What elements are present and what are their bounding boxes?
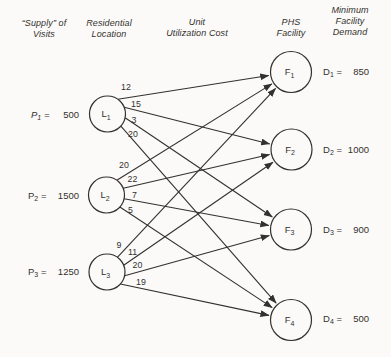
demand-label-D3-value: 900 [353,224,369,235]
transportation-network-diagram: “Supply” of Visits Residential Location … [0,0,391,357]
demand-label-D1-value: 850 [353,66,369,77]
supply-label-P1-value: 500 [63,109,79,120]
cost-label-L3-F3: 20 [133,260,143,270]
cost-label-L1-F3: 3 [132,115,137,125]
cost-label-L2-F1: 20 [119,160,129,170]
edge-L1-F2 [124,107,269,144]
cost-label-L2-F4: 5 [128,205,133,215]
edge-L1-F3 [125,118,272,217]
demand-label-D2-value: 1000 [348,144,369,155]
cost-label-L3-F4: 19 [136,277,146,287]
edge-L3-F2 [124,162,273,265]
supply-label-P1: P1 = [31,109,50,121]
demand-label-D1: D1 = [323,66,342,78]
demand-label-D4: D4 = [323,313,342,325]
edge-L2-F3 [124,199,269,226]
cost-label-L1-F1: 12 [121,82,131,92]
cost-label-L1-F2: 15 [131,99,141,109]
cost-label-L1-F4: 20 [128,129,138,139]
supply-label-P3-value: 1250 [58,266,79,277]
supply-label-P2: P2 = [28,190,47,202]
edge-L3-F4 [120,284,269,315]
demand-label-D2: D2 = [323,144,342,156]
supply-label-P3: P3 = [28,266,47,278]
cost-label-L2-F2: 22 [128,174,138,184]
supply-label-P2-value: 1500 [58,190,79,201]
cost-label-L2-F3: 7 [132,190,137,200]
network-graph: 12153202022759112019L1L2L3F1F2F3F4P1 =50… [0,0,391,357]
edge-L1-F1 [118,75,269,99]
edge-L2-F2 [123,155,269,189]
cost-label-L3-F2: 11 [128,247,137,257]
demand-label-D4-value: 500 [353,313,369,324]
cost-label-L3-F1: 9 [117,240,122,250]
edge-L3-F1 [117,88,275,257]
demand-label-D3: D3 = [323,224,342,236]
